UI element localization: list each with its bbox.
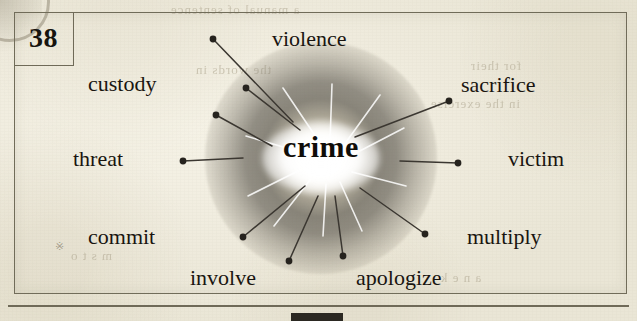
exercise-number-box: 38 bbox=[14, 12, 74, 66]
word-involve: involve bbox=[190, 267, 256, 289]
word-violence: violence bbox=[272, 28, 347, 50]
word-commit: commit bbox=[88, 226, 155, 248]
word-threat: threat bbox=[73, 148, 123, 170]
center-word: crime bbox=[205, 130, 437, 164]
word-victim: victim bbox=[508, 148, 564, 170]
word-apologize: apologize bbox=[356, 267, 442, 289]
word-sacrifice: sacrifice bbox=[461, 74, 536, 96]
word-custody: custody bbox=[88, 73, 156, 95]
word-multiply: multiply bbox=[467, 226, 542, 248]
scanned-page: ※ a manual of sentencethe words infor th… bbox=[0, 0, 637, 321]
exercise-number: 38 bbox=[29, 24, 58, 54]
